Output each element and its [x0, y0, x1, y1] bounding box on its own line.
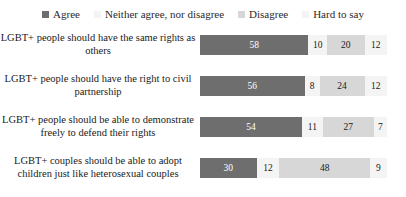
legend-swatch-hard-to-say: [302, 11, 309, 18]
chart-row-bar: 58102012: [200, 35, 387, 55]
bar-segment-value: 12: [263, 163, 273, 173]
bar-segment[interactable]: 27: [323, 117, 374, 137]
chart-row-label: LGBT+ people should be able to demonstra…: [0, 114, 200, 139]
bar-segment-value: 11: [308, 122, 317, 132]
chart-row-label: LGBT+ people should have the same rights…: [0, 32, 200, 57]
chart-row-bar: 5411277: [200, 117, 387, 137]
bar-segment[interactable]: 24: [320, 76, 365, 96]
chart-row-bar: 5682412: [200, 76, 387, 96]
legend-swatch-agree: [42, 11, 49, 18]
bar-segment[interactable]: 12: [365, 35, 387, 55]
bar-segment-value: 12: [371, 81, 381, 91]
chart-row-label: LGBT+ couples should be able to adopt ch…: [0, 155, 200, 180]
bar-segment[interactable]: 7: [374, 117, 387, 137]
bar-segment-value: 9: [376, 163, 381, 173]
legend-swatch-disagree: [238, 11, 245, 18]
legend-item-label: Hard to say: [313, 8, 364, 20]
legend-swatch-neither: [94, 11, 101, 18]
bar-segment[interactable]: 48: [279, 158, 370, 178]
bar-segment-value: 58: [249, 40, 259, 50]
bar-segment[interactable]: 30: [200, 158, 257, 178]
legend-item-label: Neither agree, nor disagree: [105, 8, 224, 20]
chart-row-label: LGBT+ people should have the right to ci…: [0, 73, 200, 98]
bar-segment-value: 27: [344, 122, 354, 132]
legend-item[interactable]: Disagree: [238, 8, 288, 20]
bar-segment-value: 7: [378, 122, 383, 132]
bar-segment[interactable]: 10: [308, 35, 327, 55]
bar-segment-value: 56: [248, 81, 258, 91]
bar-segment-value: 12: [371, 40, 381, 50]
legend-item[interactable]: Neither agree, nor disagree: [94, 8, 224, 20]
bar-segment-value: 48: [320, 163, 330, 173]
chart-plot-area: LGBT+ people should have the same rights…: [0, 24, 406, 197]
chart-row: LGBT+ couples should be able to adopt ch…: [0, 147, 406, 188]
chart-row: LGBT+ people should be able to demonstra…: [0, 106, 406, 147]
bar-segment[interactable]: 12: [257, 158, 280, 178]
legend-item-label: Disagree: [249, 8, 288, 20]
bar-segment[interactable]: 56: [200, 76, 305, 96]
stacked-bar-chart: AgreeNeither agree, nor disagreeDisagree…: [0, 0, 406, 197]
bar-segment-value: 30: [224, 163, 234, 173]
legend-item[interactable]: Agree: [42, 8, 80, 20]
bar-segment-value: 8: [310, 81, 315, 91]
bar-segment[interactable]: 9: [370, 158, 387, 178]
legend-item[interactable]: Hard to say: [302, 8, 364, 20]
bar-segment[interactable]: 8: [305, 76, 320, 96]
bar-segment-value: 20: [341, 40, 351, 50]
bar-segment-value: 10: [313, 40, 323, 50]
bar-segment[interactable]: 11: [302, 117, 323, 137]
chart-row-bar: 3012489: [200, 158, 387, 178]
bar-segment[interactable]: 12: [365, 76, 387, 96]
bar-segment-value: 54: [246, 122, 256, 132]
legend-item-label: Agree: [53, 8, 80, 20]
bar-segment[interactable]: 58: [200, 35, 308, 55]
chart-legend: AgreeNeither agree, nor disagreeDisagree…: [0, 0, 406, 24]
bar-segment[interactable]: 54: [200, 117, 302, 137]
bar-segment-value: 24: [337, 81, 347, 91]
bar-segment[interactable]: 20: [327, 35, 364, 55]
chart-row: LGBT+ people should have the right to ci…: [0, 65, 406, 106]
chart-row: LGBT+ people should have the same rights…: [0, 24, 406, 65]
